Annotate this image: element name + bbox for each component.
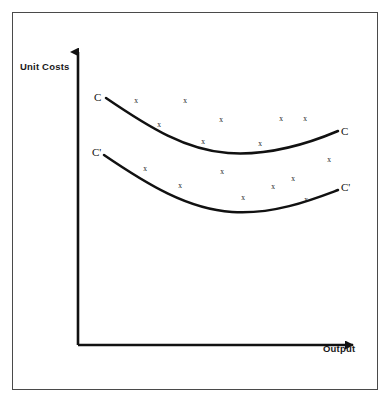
x-axis-label: Output (323, 343, 355, 354)
curve-label-c-right: C (341, 125, 348, 137)
scatter-marker: x (219, 115, 223, 124)
curve-label-c-prime-right: C' (341, 181, 350, 193)
scatter-marker: x (279, 114, 283, 123)
y-axis-label: Unit Costs (20, 61, 70, 72)
scatter-marker: x (183, 96, 187, 105)
scatter-marker: x (201, 137, 205, 146)
scatter-marker: x (157, 120, 161, 129)
curve-label-c-prime-left: C' (92, 146, 101, 158)
scatter-marker: x (241, 193, 245, 202)
scatter-marker: x (220, 167, 224, 176)
scatter-marker: x (327, 155, 331, 164)
scatter-marker: x (291, 174, 295, 183)
scatter-marker: x (304, 195, 308, 204)
cost-curve-c-prime (104, 155, 338, 212)
scatter-marker: x (258, 139, 262, 148)
figure-container: Unit Costs Output C C C' C' xxxxxxxxxxxx… (0, 0, 392, 404)
scatter-marker: x (134, 96, 138, 105)
cost-curve-c (106, 98, 338, 153)
scatter-marker: x (271, 182, 275, 191)
scatter-marker: x (143, 164, 147, 173)
curve-label-c-left: C (94, 91, 101, 103)
scatter-marker: x (178, 181, 182, 190)
scatter-marker: x (303, 114, 307, 123)
